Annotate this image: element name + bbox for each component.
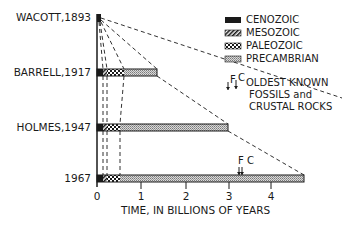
bar-barrell-1917 bbox=[97, 69, 157, 76]
geologic-time-chart: F C WACOTT,1893 BARRELL,1917 HOLMES,1947… bbox=[0, 0, 342, 231]
bar-holmes-1947 bbox=[97, 124, 228, 131]
x-tick-3: 3 bbox=[226, 190, 233, 202]
arrow-down-icon bbox=[226, 87, 230, 90]
x-tick-1: 1 bbox=[138, 190, 145, 202]
note-line-1: OLDEST KNOWN bbox=[246, 77, 328, 88]
note-line-3: CRUSTAL ROCKS bbox=[249, 101, 332, 112]
x-tick-2: 2 bbox=[183, 190, 190, 202]
note-c: C bbox=[238, 72, 245, 83]
row-label-1967: 1967 bbox=[64, 172, 91, 184]
legend-swatch-precambrian bbox=[225, 56, 241, 62]
row-label-holmes: HOLMES,1947 bbox=[17, 121, 91, 133]
x-tick-4: 4 bbox=[268, 190, 275, 202]
legend-label-mesozoic: MESOZOIC bbox=[246, 27, 300, 38]
row-label-barrell: BARRELL,1917 bbox=[14, 66, 91, 78]
legend-label-cenozoic: CENOZOIC bbox=[246, 14, 299, 25]
legend-swatch-cenozoic bbox=[225, 17, 241, 23]
x-axis bbox=[141, 182, 271, 189]
row-label-wacott: WACOTT,1893 bbox=[16, 11, 91, 23]
legend-swatch-mesozoic bbox=[225, 30, 241, 36]
fc-markers-1967: F C bbox=[237, 155, 254, 175]
legend: CENOZOIC MESOZOIC PALEOZOIC PRECAMBRIAN … bbox=[225, 14, 332, 112]
x-axis-title: TIME, IN BILLIONS OF YEARS bbox=[120, 204, 271, 216]
legend-swatch-paleozoic bbox=[225, 43, 241, 49]
x-tick-0: 0 bbox=[94, 190, 101, 202]
note-f: F bbox=[230, 74, 236, 85]
arrow-down-icon bbox=[234, 86, 238, 89]
legend-label-paleozoic: PALEOZOIC bbox=[246, 40, 303, 51]
bar-1967 bbox=[97, 175, 304, 182]
legend-label-precambrian: PRECAMBRIAN bbox=[246, 53, 319, 64]
fc-marker-label: F C bbox=[238, 155, 254, 166]
bar-wacott-1893 bbox=[97, 14, 101, 22]
note-line-2: FOSSILS and bbox=[249, 89, 312, 100]
